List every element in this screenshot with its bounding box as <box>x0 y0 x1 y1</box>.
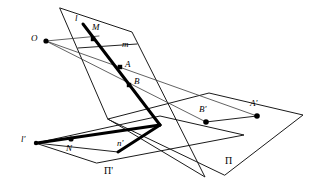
point-n <box>68 136 73 141</box>
point-a <box>118 65 122 69</box>
label-m-point: M <box>92 23 100 32</box>
line-l-prime-thick <box>37 125 160 143</box>
label-l: l <box>75 14 78 23</box>
geometry-figure: O l M m A B B' A' П l' N n' П' <box>0 0 314 187</box>
segment-a-prime-b-prime <box>206 116 257 122</box>
label-a-prime: A' <box>250 99 257 108</box>
oblique-plane-group <box>60 8 205 177</box>
label-m-line: m <box>122 40 129 49</box>
ray-O-to-A-prime <box>46 41 257 116</box>
label-pi: П <box>225 156 232 166</box>
label-n: N <box>66 144 72 153</box>
label-b: B <box>134 77 140 86</box>
oblique-plane-outline <box>60 8 205 177</box>
label-pi-prime: П' <box>104 166 113 176</box>
label-n-prime: n' <box>117 139 123 148</box>
point-l-prime-corner <box>34 141 38 145</box>
point-o <box>43 38 48 43</box>
label-b-prime: B' <box>199 105 206 114</box>
points-group <box>34 37 260 145</box>
point-b-prime <box>203 119 209 125</box>
label-a: A <box>125 60 131 69</box>
figure-canvas <box>0 0 314 187</box>
label-o: O <box>31 34 38 43</box>
point-b <box>127 83 131 87</box>
point-a-prime <box>254 113 260 119</box>
label-l-prime: l' <box>21 135 25 144</box>
point-m <box>91 37 95 41</box>
